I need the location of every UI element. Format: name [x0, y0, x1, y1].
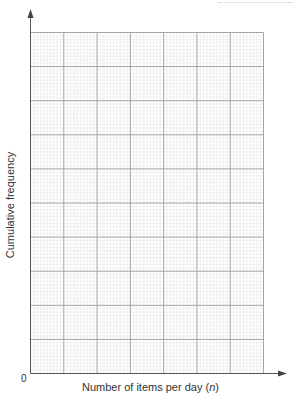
x-axis-label: Number of items per day (n)	[82, 381, 219, 393]
x-axis	[31, 371, 288, 377]
y-axis-arrow-icon	[28, 9, 34, 18]
x-axis-label-prefix: Number of items per day (	[82, 381, 209, 393]
x-axis-label-suffix: )	[215, 381, 219, 393]
graph-paper	[0, 0, 295, 397]
y-axis-label: Cumulative frequency	[4, 152, 16, 258]
origin-label: 0	[21, 373, 27, 384]
x-axis-arrow-icon	[278, 371, 287, 377]
